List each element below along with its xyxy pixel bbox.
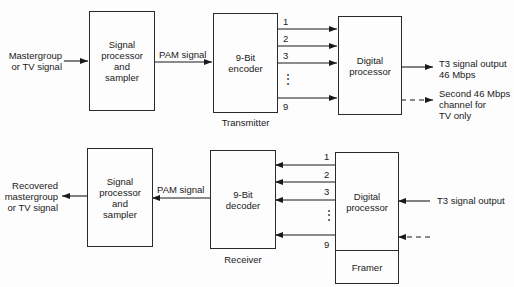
- rx-channel-2: 2: [324, 170, 329, 180]
- rx-signal-processor-sampler: Signal processor and sampler: [87, 148, 153, 247]
- rx-channel-3: 3: [324, 187, 329, 197]
- tx-digital-processor: Digital processor: [338, 16, 402, 115]
- tx-pam-label: PAM signal: [159, 49, 206, 60]
- t3-input-label: T3 signal output: [437, 195, 505, 206]
- encoder-box: 9-Bit encoder: [213, 13, 278, 113]
- framer-box: Framer: [335, 250, 399, 284]
- tx-channel-9: 9: [283, 102, 288, 112]
- receiver-label: Receiver: [210, 254, 276, 265]
- rx-channel-9: 9: [324, 240, 329, 250]
- rx-digital-processor: Digital processor: [335, 152, 399, 251]
- decoder-box: 9-Bit decoder: [210, 150, 276, 249]
- rx-channel-1: 1: [324, 152, 329, 162]
- tx-channel-3: 3: [283, 51, 288, 61]
- rx-pam-label: PAM signal: [157, 184, 204, 195]
- second-channel-label: Second 46 Mbps channel for TV only: [439, 88, 510, 121]
- tx-channel-1: 1: [283, 17, 288, 27]
- tx-channel-2: 2: [283, 34, 288, 44]
- transmitter-label: Transmitter: [213, 117, 278, 128]
- rx-output-label: Recovered mastergroup or TV signal: [0, 180, 58, 213]
- rx-channel-ellipsis: ⋮: [323, 210, 335, 220]
- tx-signal-processor-sampler: Signal processor and sampler: [89, 11, 155, 111]
- tx-channel-ellipsis: ⋮: [282, 74, 294, 84]
- tx-input-label: Mastergroup or TV signal: [0, 50, 62, 72]
- block-diagram: Mastergroup or TV signal Signal processo…: [0, 0, 514, 287]
- t3-output-label: T3 signal output 46 Mbps: [439, 58, 507, 80]
